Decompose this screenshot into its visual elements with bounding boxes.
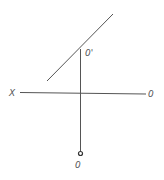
axis-left-label: X (8, 88, 16, 98)
axis-x-line (20, 93, 146, 95)
point-marker (79, 152, 83, 156)
upper-point-label: 0' (85, 48, 93, 58)
lower-point-label: 0 (75, 160, 81, 170)
axis-right-label: 0 (148, 89, 154, 99)
projection-diagram: X 0 0' 0 (0, 0, 164, 180)
